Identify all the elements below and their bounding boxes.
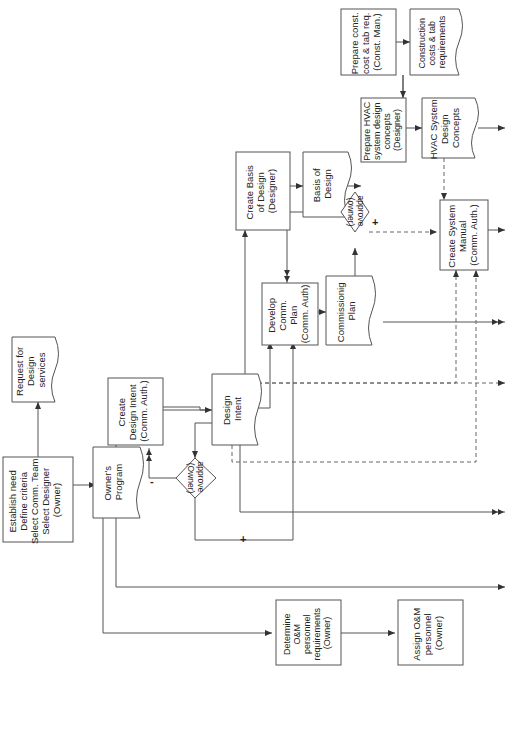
node-create-basis-of-design[interactable]: Create Basis of Design (Designer) [236,152,290,230]
node-construction-costs[interactable]: Construction costs & tab requirements [410,9,463,75]
node-label: approve (Owner) [186,461,206,494]
node-label: Basis of Design [311,166,333,202]
plus-sign-2: + [372,216,378,228]
node-label: Owner's Program [102,463,124,500]
minus-sign-1: - [150,475,154,487]
node-label: approve (owner) [346,195,366,228]
node-approve-owner-1[interactable]: approve (Owner) [176,458,216,498]
plus-sign-1: + [240,533,246,545]
node-develop-comm-plan[interactable]: Develop Comm. Plan (Comm. Auth) [262,283,318,345]
node-establish-need[interactable]: Establish need Define criteria Select Co… [3,456,73,544]
node-assign-om-personnel[interactable]: Assign O&M personnel (Owner) [398,600,463,665]
node-commissioning-plan[interactable]: Commissionig Plan [326,276,376,345]
node-label: Create Basis of Design (Designer) [244,162,277,219]
node-create-system-manual[interactable]: Create System Manual (Comm. Auth.) [440,200,488,270]
node-approve-owner-2[interactable]: approve (owner) [341,192,369,232]
flowchart-canvas: - + - + Establish need Define criteria S… [0,0,514,750]
node-create-design-intent[interactable]: Create Design Intent (Comm. Auth.) [108,378,163,445]
node-design-intent[interactable]: Design Intent [212,374,262,445]
node-hvac-system-design-concepts[interactable]: HVAC System Design Concepts [422,97,479,160]
node-request-for-design[interactable]: Request for Design services [12,337,59,402]
node-prepare-const-cost[interactable]: Prepare const. cost & tab req. (Const. M… [341,9,396,75]
node-label: Design Intent [221,393,243,425]
node-label: Construction costs & tab requirements [417,15,447,68]
node-owners-program[interactable]: Owner's Program [93,447,144,518]
node-determine-om-requirements[interactable]: Determine O&M personnel requirements (Ow… [276,600,341,665]
node-prepare-hvac[interactable]: Prepare HVAC system design concepts (Des… [361,98,406,162]
node-label: Prepare const. cost & tab req. (Const. M… [349,10,382,74]
